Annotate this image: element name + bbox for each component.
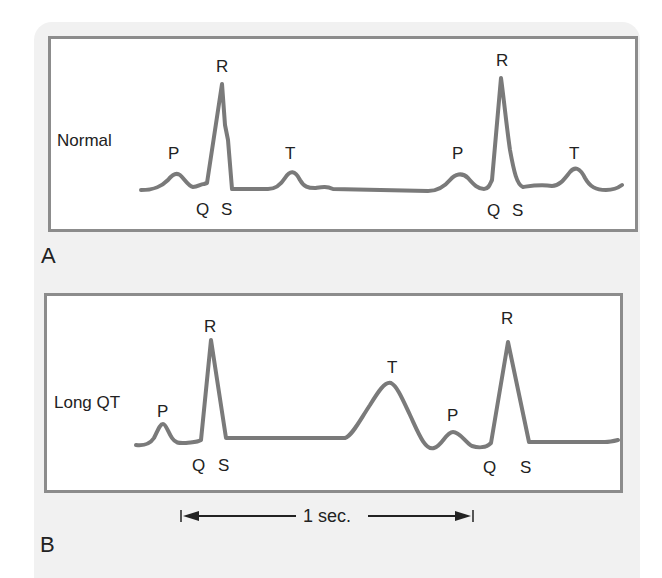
- scale-bar-arrows: [0, 0, 662, 578]
- scale-bar-label: 1 sec.: [303, 506, 351, 527]
